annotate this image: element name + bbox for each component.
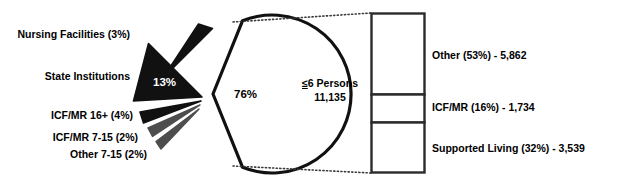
slice-label-nursing-facilities: Nursing Facilities (3%) <box>17 28 130 41</box>
callout-title-main: 6 Persons <box>308 77 358 89</box>
pie-slice-state-institutions[interactable] <box>134 44 203 102</box>
callout-title-line: ≤6 Persons <box>292 76 368 90</box>
slice-label-icfmr-7-15: ICF/MR 7-15 (2%) <box>53 131 138 144</box>
callout-title-value: 11,135 <box>292 90 368 104</box>
callout-label-other: Other (53%) - 5,862 <box>432 49 527 62</box>
callout-segment-icfmr[interactable] <box>372 95 425 123</box>
slice-label-other-7-15: Other 7-15 (2%) <box>70 148 147 161</box>
slice-percent-state-institutions: 13% <box>153 76 176 88</box>
slice-label-icfmr-16-plus: ICF/MR 16+ (4%) <box>51 109 133 122</box>
slice-label-state-institutions: State Institutions <box>45 70 130 83</box>
pie-chart-with-breakout-figure: Nursing Facilities (3%) State Institutio… <box>0 0 619 185</box>
callout-segment-other[interactable] <box>372 14 425 95</box>
callout-label-supported-living: Supported Living (32%) - 3,539 <box>432 142 585 155</box>
callout-label-icfmr: ICF/MR (16%) - 1,734 <box>432 101 535 114</box>
callout-title-block: ≤6 Persons 11,135 <box>292 76 368 104</box>
callout-segment-supported-living[interactable] <box>372 123 425 173</box>
slice-percent-small-facilities: 76% <box>234 88 257 100</box>
